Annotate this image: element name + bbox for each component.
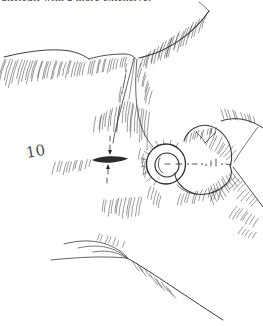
contour-line [64, 241, 127, 257]
book-page: difficult with a more extensive. [0, 0, 263, 326]
incision-marker-top [108, 136, 112, 155]
hatch-stroke-group [94, 102, 125, 132]
contour-line [89, 54, 135, 59]
contour-line [51, 257, 127, 260]
contour-line [233, 167, 263, 207]
incision-marker-bottom [106, 164, 110, 183]
hatch-stroke-group [52, 160, 91, 175]
hatch-stroke-group [133, 262, 176, 299]
perineum-line-drawing: 10 [0, 0, 263, 326]
hatch-stroke-group [88, 57, 127, 75]
inner-ring-detail [158, 158, 170, 173]
hatch-stroke-group [206, 129, 236, 160]
figure-label-10: 10 [25, 141, 47, 162]
hatch-stroke-group [102, 197, 142, 218]
midline-dot [221, 163, 223, 165]
contour-line [78, 246, 127, 258]
arrow-up-icon [106, 164, 110, 169]
marker-bottom-dashes [107, 169, 108, 183]
midline-dashed-line [176, 159, 231, 166]
hatch-stroke-group [97, 234, 124, 247]
hatch-stroke-group [0, 59, 85, 88]
midline-dot [205, 164, 207, 166]
contour-line [175, 125, 232, 194]
hatch-stroke-group [119, 64, 127, 103]
contour-line [127, 258, 223, 320]
hatch-stroke-group [225, 177, 258, 207]
contour-line [199, 2, 209, 11]
midline-dot [187, 163, 189, 165]
hatch-stroke-group [137, 63, 152, 104]
contour-line [139, 11, 209, 58]
hatching-and-contours [0, 2, 263, 320]
hatch-stroke-group [238, 227, 256, 238]
hatch-stroke-group [148, 187, 162, 208]
contour-line [234, 127, 258, 162]
midline-dot [201, 163, 203, 165]
midline-dashes [176, 159, 231, 166]
incision-slit [92, 156, 128, 163]
contour-line [221, 119, 263, 128]
arrow-down-icon [108, 150, 112, 155]
hatch-stroke-group [229, 206, 258, 227]
contour-line [4, 50, 89, 59]
